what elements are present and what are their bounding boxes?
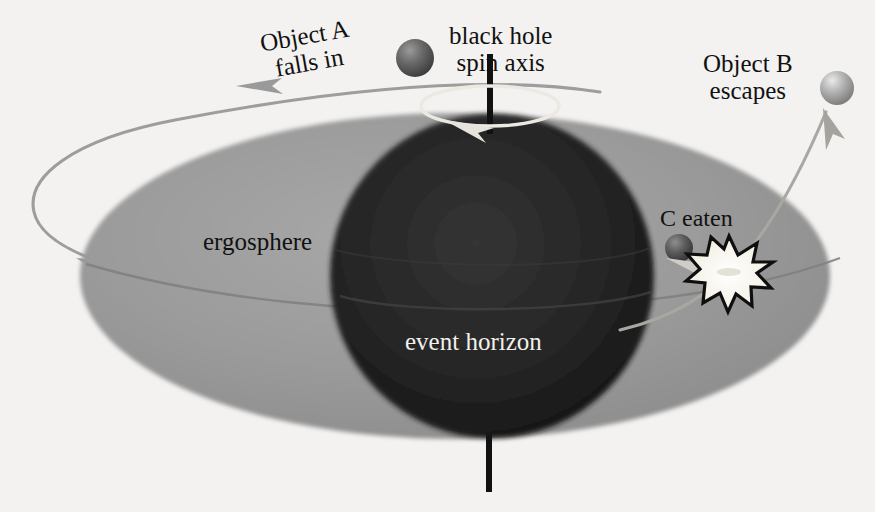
label-ergosphere: ergosphere bbox=[203, 228, 312, 255]
label-event-horizon: event horizon bbox=[405, 328, 542, 355]
object-b-sphere bbox=[820, 71, 854, 105]
label-object-b-line1: Object B bbox=[703, 50, 793, 77]
black-hole-diagram: Object A falls in black hole spin axis O… bbox=[0, 0, 875, 512]
label-object-b-line2: escapes bbox=[703, 77, 793, 104]
label-black-hole-line1: black hole bbox=[449, 22, 552, 49]
arrow-escape-up bbox=[823, 108, 845, 150]
spin-axis-bar-lower bbox=[486, 430, 492, 492]
event-horizon-sphere bbox=[330, 114, 654, 438]
object-a-sphere bbox=[396, 39, 434, 77]
label-object-b: Object B escapes bbox=[703, 50, 793, 104]
label-black-hole-line2: spin axis bbox=[449, 49, 552, 76]
label-c-eaten: C eaten bbox=[660, 206, 733, 232]
label-black-hole-spin-axis: black hole spin axis bbox=[449, 22, 552, 76]
